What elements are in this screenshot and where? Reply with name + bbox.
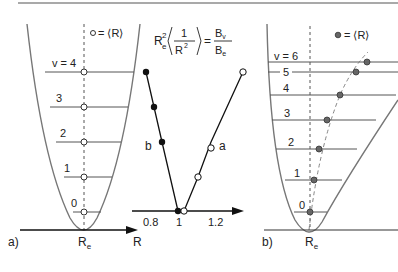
- formula: R 2 e 1 R 2 = Bv Be: [154, 27, 232, 57]
- series-b-point: [151, 104, 157, 110]
- re-label-b: Re: [305, 235, 319, 251]
- mean-r-marker: [81, 174, 87, 180]
- svg-text:Be: Be: [215, 44, 226, 57]
- legend-open-circle-icon: [91, 31, 96, 36]
- level-label-5: 5: [283, 66, 289, 78]
- series-a-point: [181, 208, 187, 214]
- level-label-3: 3: [56, 92, 62, 104]
- svg-text:e: e: [162, 42, 167, 51]
- legend-text-b: = ⟨R⟩: [344, 29, 369, 41]
- panel-a: v = 4 3 2 1 0 = ⟨R⟩ a) Re R: [8, 24, 142, 251]
- mean-r-marker: [81, 104, 87, 110]
- mean-r-marker: [311, 177, 317, 183]
- series-a-point: [240, 69, 246, 75]
- mean-r-marker: [81, 139, 87, 145]
- tick-label-0-8: 0.8: [143, 216, 158, 228]
- series-b-point: [175, 208, 181, 214]
- svg-text:2: 2: [184, 42, 188, 49]
- mean-r-marker: [316, 146, 322, 152]
- axis-arrow-icon: [126, 226, 138, 234]
- level-label-6: v = 6: [274, 50, 298, 62]
- svg-text:=: =: [204, 34, 211, 48]
- mean-r-marker: [81, 69, 87, 75]
- level-label-4: v = 4: [52, 57, 76, 69]
- series-b-point: [143, 69, 149, 75]
- series-a-label: a: [219, 139, 226, 153]
- tick-label-1: 1: [176, 216, 182, 228]
- level-label-2: 2: [60, 127, 66, 139]
- series-b-point: [159, 139, 165, 145]
- mean-r-marker: [81, 209, 87, 215]
- panel-b-label: b): [262, 235, 273, 249]
- mean-r-marker: [364, 59, 370, 65]
- mean-r-marker: [337, 92, 343, 98]
- tick-label-1-2: 1.2: [208, 216, 223, 228]
- series-a-point: [208, 145, 214, 151]
- re-label-a: Re: [78, 235, 92, 251]
- level-label-0: 0: [71, 197, 77, 209]
- panel-a-label: a): [8, 235, 19, 249]
- svg-text:1: 1: [181, 27, 187, 39]
- legend-text-a: = ⟨R⟩: [98, 27, 123, 39]
- axis-arrow-icon: [232, 207, 244, 215]
- svg-text:R: R: [175, 44, 183, 56]
- mean-r-marker: [324, 117, 330, 123]
- mean-r-trend-curve: [309, 52, 368, 230]
- legend-filled-circle-icon: [335, 32, 341, 38]
- level-label-3: 3: [284, 107, 290, 119]
- diagram: v = 4 3 2 1 0 = ⟨R⟩ a) Re R R 2 e 1 R 2 …: [0, 0, 398, 272]
- r-axis-label: R: [133, 235, 142, 249]
- level-label-0: 0: [299, 199, 305, 211]
- level-label-1: 1: [294, 167, 300, 179]
- level-label-4: 4: [283, 82, 289, 94]
- series-b-label: b: [145, 139, 152, 153]
- panel-b: v = 6 5 4 3 2 1 0 = ⟨R⟩ b) Re: [262, 24, 398, 251]
- level-label-1: 1: [64, 162, 70, 174]
- series-a-line: [184, 72, 243, 211]
- series-a-point: [195, 174, 201, 180]
- panel-middle: R 2 e 1 R 2 = Bv Be 0.8 1 1.2: [132, 27, 246, 228]
- mean-r-marker: [307, 209, 313, 215]
- level-label-2: 2: [288, 136, 294, 148]
- svg-text:2: 2: [162, 31, 167, 40]
- svg-text:Bv: Bv: [215, 27, 226, 40]
- mean-r-marker: [353, 69, 359, 75]
